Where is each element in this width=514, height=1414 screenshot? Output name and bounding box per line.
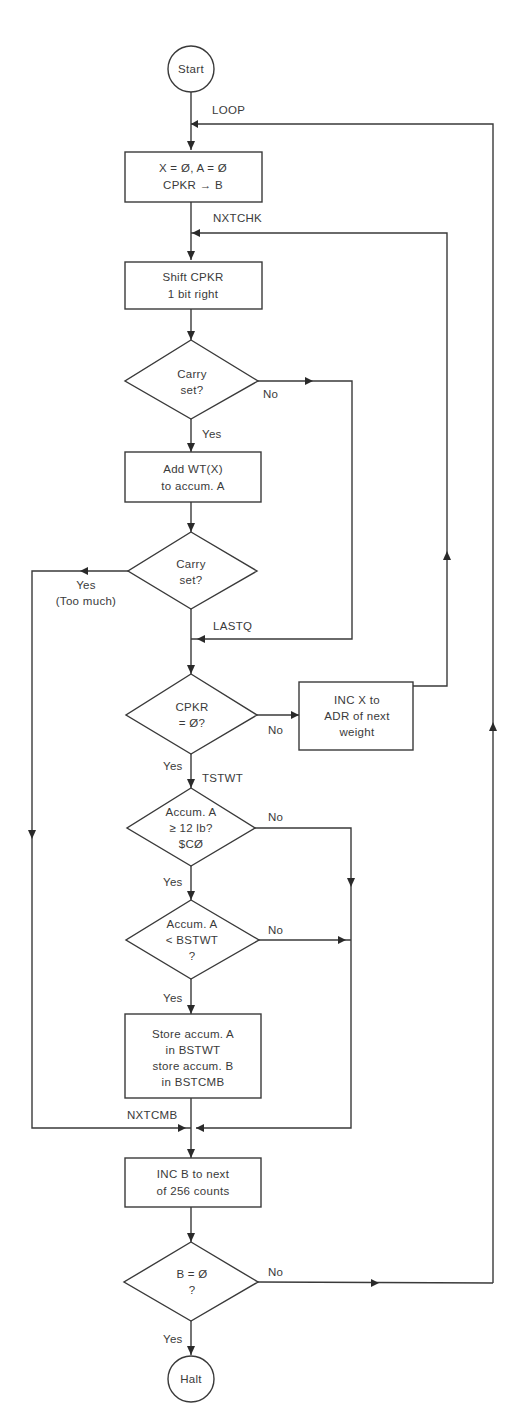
arrow-down-icon	[187, 523, 195, 532]
svg-text:Accum. A: Accum. A	[166, 806, 217, 818]
svg-text:1 bit right: 1 bit right	[168, 288, 219, 300]
svg-text:Accum. A: Accum. A	[167, 918, 218, 930]
svg-text:B = Ø: B = Ø	[176, 1268, 207, 1280]
arrow-down-icon	[28, 830, 36, 839]
decision-accum-ge-12: Accum. A ≥ 12 lb? $CØ	[127, 788, 255, 866]
arrow-down-icon	[187, 665, 195, 674]
svg-text:set?: set?	[180, 574, 203, 586]
branch-no: No	[263, 388, 278, 400]
arrow-down-icon	[187, 1233, 195, 1242]
halt-label: Halt	[180, 1373, 202, 1385]
svg-text:of 256 counts: of 256 counts	[157, 1185, 230, 1197]
branch-yes: Yes	[163, 1333, 183, 1345]
svg-text:≥ 12 lb?: ≥ 12 lb?	[169, 822, 212, 834]
branch-yes: Yes	[163, 992, 183, 1004]
svg-text:set?: set?	[181, 384, 204, 396]
svg-text:in BSTCMB: in BSTCMB	[162, 1076, 225, 1088]
arrow-right-icon	[178, 1124, 186, 1132]
label-lastq: LASTQ	[213, 620, 252, 632]
decision-cpkr-zero: CPKR = Ø?	[126, 674, 257, 754]
branch-yes: Yes	[163, 876, 183, 888]
arrow-down-icon	[187, 251, 195, 260]
svg-text:CPKR → B: CPKR → B	[163, 179, 223, 191]
arrow-left-icon	[197, 635, 205, 643]
arrow-down-icon	[187, 141, 195, 150]
arrow-right-icon	[291, 711, 299, 719]
branch-no: No	[268, 1266, 283, 1278]
arrow-right-icon	[371, 1279, 379, 1287]
branch-yes: Yes	[76, 579, 96, 591]
label-loop: LOOP	[212, 104, 245, 116]
svg-text:Carry: Carry	[176, 558, 206, 570]
svg-text:Store accum. A: Store accum. A	[152, 1028, 234, 1040]
process-add: Add WT(X) to accum. A	[125, 452, 261, 502]
svg-text:INC B to next: INC B to next	[157, 1168, 230, 1180]
svg-text:ADR of next: ADR of next	[324, 710, 390, 722]
svg-text:Add WT(X): Add WT(X)	[163, 463, 223, 475]
label-nxtchk: NXTCHK	[213, 212, 262, 224]
arrow-down-icon	[347, 878, 355, 887]
branch-no: No	[268, 724, 283, 736]
arrow-down-icon	[187, 1005, 195, 1014]
label-tstwt: TSTWT	[202, 772, 243, 784]
svg-text:X = Ø, A = Ø: X = Ø, A = Ø	[159, 162, 227, 174]
branch-yes: Yes	[202, 428, 222, 440]
arrow-down-icon	[187, 891, 195, 900]
process-shift: Shift CPKR 1 bit right	[125, 262, 262, 309]
process-init: X = Ø, A = Ø CPKR → B	[125, 152, 262, 202]
arrow-down-icon	[187, 1346, 195, 1355]
arrow-left-icon	[196, 1124, 204, 1132]
arrow-up-icon	[489, 722, 497, 731]
branch-no: No	[268, 811, 283, 823]
arrow-up-icon	[443, 551, 451, 560]
flowchart: Start LOOP X = Ø, A = Ø CPKR → B NXTCHK …	[0, 0, 514, 1414]
svg-text:INC X to: INC X to	[334, 694, 380, 706]
branch-yes-note: (Too much)	[56, 595, 117, 607]
svg-text:in BSTWT: in BSTWT	[166, 1044, 221, 1056]
start-label: Start	[178, 63, 204, 75]
branch-no: No	[268, 924, 283, 936]
process-store: Store accum. A in BSTWT store accum. B i…	[125, 1014, 261, 1098]
label-nxtcmb: NXTCMB	[127, 1109, 177, 1121]
decision-b-zero: B = Ø ?	[124, 1242, 258, 1321]
start-terminal: Start	[168, 46, 214, 92]
svg-text:Shift CPKR: Shift CPKR	[162, 271, 223, 283]
arrow-right-icon	[338, 936, 346, 944]
decision-accum-lt-bstwt: Accum. A < BSTWT ?	[126, 900, 259, 979]
arrow-down-icon	[187, 779, 195, 788]
arrow-down-icon	[187, 1149, 195, 1158]
arrow-left-icon	[80, 567, 88, 575]
decision-carry-set-2: Carry set?	[128, 532, 257, 609]
arrow-left-icon	[192, 229, 200, 237]
svg-text:Carry: Carry	[177, 368, 207, 380]
svg-text:?: ?	[189, 1284, 196, 1296]
svg-text:to accum. A: to accum. A	[161, 480, 224, 492]
svg-text:weight: weight	[338, 726, 375, 738]
branch-yes: Yes	[163, 760, 183, 772]
halt-terminal: Halt	[168, 1356, 214, 1402]
svg-text:?: ?	[189, 950, 196, 962]
process-inc-b: INC B to next of 256 counts	[125, 1158, 261, 1207]
arrow-down-icon	[187, 331, 195, 340]
svg-text:CPKR: CPKR	[175, 701, 208, 713]
arrow-right-icon	[305, 377, 313, 385]
arrow-down-icon	[187, 443, 195, 452]
arrow-left-icon	[191, 120, 198, 128]
svg-text:< BSTWT: < BSTWT	[166, 934, 218, 946]
svg-text:$CØ: $CØ	[179, 838, 204, 850]
decision-carry-set-1: Carry set?	[125, 340, 258, 419]
process-inc-x: INC X to ADR of next weight	[299, 682, 413, 750]
svg-text:= Ø?: = Ø?	[179, 717, 205, 729]
svg-text:store accum. B: store accum. B	[153, 1060, 234, 1072]
